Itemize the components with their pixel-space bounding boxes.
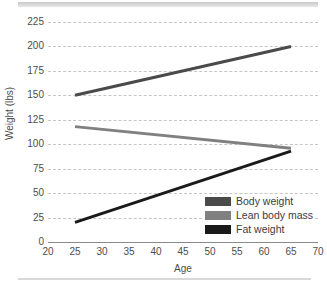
- legend-label: Body weight: [236, 196, 293, 207]
- legend-swatch: [205, 211, 231, 220]
- series-line: [75, 127, 291, 149]
- chart-legend: Body weightLean body massFat weight: [203, 194, 315, 237]
- legend-item: Lean body mass: [205, 209, 313, 222]
- legend-label: Lean body mass: [236, 210, 313, 221]
- legend-swatch: [205, 225, 231, 234]
- chart-figure: 0255075100125150175200225 20253035404550…: [0, 0, 327, 290]
- legend-swatch: [205, 197, 231, 206]
- legend-item: Fat weight: [205, 223, 313, 236]
- data-series-layer: [0, 0, 327, 290]
- y-axis-title: Weight (lbs): [4, 77, 15, 151]
- legend-label: Fat weight: [236, 224, 284, 235]
- legend-item: Body weight: [205, 195, 313, 208]
- series-line: [75, 46, 291, 95]
- x-axis-title: Age: [48, 263, 318, 274]
